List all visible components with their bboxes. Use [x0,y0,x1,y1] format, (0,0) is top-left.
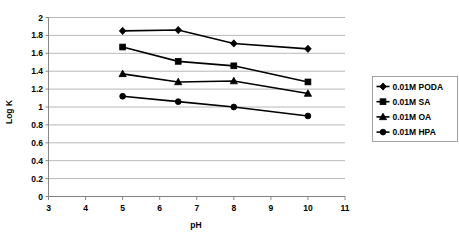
y-tick-label: 1.6 [31,48,43,58]
data-point [120,93,126,99]
x-tick-label: 4 [83,203,88,213]
x-axis-title: pH [190,220,201,230]
y-tick-labels-group: 00.20.40.60.811.21.41.61.82 [31,13,43,202]
data-point [231,63,237,69]
x-tick-labels-group: 34567891011 [46,203,350,213]
y-tick-label: 1.8 [31,30,43,40]
series-group [119,26,312,118]
series-line [123,30,308,49]
legend-item-label: 0.01M OA [393,112,432,122]
x-tick-label: 8 [231,203,236,213]
chart-container: 00.20.40.60.811.21.41.61.82 34567891011 … [0,0,459,235]
legend-marker-circle [380,129,386,135]
legend-item-label: 0.01M PODA [393,82,444,92]
x-tick-label: 5 [120,203,125,213]
y-tick-label: 0.4 [31,156,43,166]
y-tick-label: 2 [38,13,43,23]
y-tick-label: 0.8 [31,120,43,130]
data-point [120,44,126,50]
data-point [175,58,181,64]
y-tick-label: 0.2 [31,174,43,184]
legend: 0.01M PODA0.01M SA0.01M OA0.01M HPA [373,77,458,142]
x-tick-label: 11 [341,203,350,213]
data-point [231,104,237,110]
y-tick-label: 1.2 [31,84,43,94]
x-tick-label: 7 [194,203,199,213]
data-point [305,79,311,85]
data-point [175,26,182,33]
series-0-01m-poda [119,26,311,52]
y-tick-label: 0.6 [31,138,43,148]
x-tick-label: 3 [46,203,51,213]
series-line [123,74,308,94]
data-point [119,27,126,34]
legend-item-label: 0.01M SA [393,97,431,107]
legend-item-label: 0.01M HPA [393,127,436,137]
gridlines-group [49,18,346,197]
legend-marker-square [380,99,386,105]
y-tick-label: 1.4 [31,66,43,76]
data-point [230,40,237,47]
series-0-01m-hpa [120,93,311,118]
line-chart: 00.20.40.60.811.21.41.61.82 34567891011 … [0,0,459,235]
data-point [305,45,312,52]
data-point [175,99,181,105]
series-line [123,96,308,116]
x-tick-label: 6 [157,203,162,213]
series-0-01m-oa [119,70,312,96]
y-tick-label: 1 [38,102,43,112]
y-tick-label: 0 [38,192,43,202]
axes-group [46,18,346,201]
data-point [305,113,311,119]
series-line [123,47,308,82]
x-tick-label: 9 [269,203,274,213]
y-axis-title: Log K [4,99,14,124]
series-0-01m-sa [120,44,311,85]
x-tick-label: 10 [303,203,313,213]
